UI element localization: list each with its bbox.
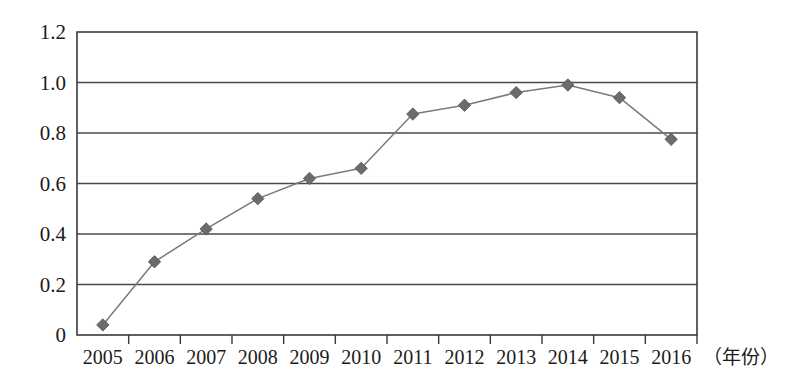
x-axis-tick-label: 2009 bbox=[290, 346, 330, 368]
x-axis-tick-label: 2010 bbox=[341, 346, 381, 368]
x-axis-tick-label: 2014 bbox=[548, 346, 588, 368]
x-axis-tick-label: 2016 bbox=[651, 346, 691, 368]
y-axis-tick-label: 0.4 bbox=[40, 222, 67, 246]
x-axis-tick-label: 2008 bbox=[238, 346, 278, 368]
x-axis-tick-label: 2005 bbox=[83, 346, 123, 368]
line-chart: 00.20.40.60.81.01.2 20052006200720082009… bbox=[0, 0, 805, 387]
x-axis-tick-label: 2013 bbox=[496, 346, 536, 368]
y-axis-tick-label: 0.2 bbox=[40, 273, 66, 297]
x-axis-tick-label: 2011 bbox=[393, 346, 432, 368]
y-axis-tick-label: 0.8 bbox=[40, 121, 66, 145]
x-axis-title: （年份） bbox=[703, 347, 779, 368]
chart-container: 00.20.40.60.81.01.2 20052006200720082009… bbox=[0, 0, 805, 387]
x-axis-tick-label: 2006 bbox=[135, 346, 175, 368]
y-axis-tick-label: 1.2 bbox=[40, 20, 66, 44]
x-axis-tick-label: 2012 bbox=[445, 346, 485, 368]
y-axis-tick-label: 0 bbox=[56, 323, 67, 347]
y-axis-tick-label: 0.6 bbox=[40, 172, 66, 196]
x-axis-tick-label: 2007 bbox=[186, 346, 226, 368]
chart-background bbox=[0, 0, 805, 387]
x-axis-tick-label: 2015 bbox=[600, 346, 640, 368]
y-axis-tick-label: 1.0 bbox=[40, 71, 66, 95]
